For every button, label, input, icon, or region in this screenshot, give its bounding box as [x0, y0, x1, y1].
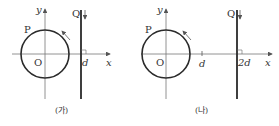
- wire-label: Q: [72, 8, 80, 19]
- origin-label: O: [34, 57, 42, 68]
- caption: (가): [55, 106, 68, 115]
- x-axis-label: x: [106, 57, 112, 68]
- origin-label: O: [156, 57, 164, 68]
- panel-b: y Q P O d 2d x (나): [141, 4, 272, 115]
- tick-label-2d: 2d: [237, 57, 251, 68]
- y-axis-label: y: [156, 4, 163, 15]
- panel-a: y Q P O d x (가): [12, 4, 112, 115]
- loop-label: P: [24, 24, 31, 35]
- y-axis-label: y: [35, 4, 42, 15]
- x-axis-label: x: [265, 57, 271, 68]
- tick-label-d: d: [82, 57, 88, 68]
- diagram-canvas: y Q P O d x (가) y Q P O d 2d x (나): [0, 0, 279, 126]
- tick-label-d: d: [199, 58, 205, 69]
- loop-label: P: [145, 24, 152, 35]
- wire-label: Q: [227, 8, 235, 19]
- caption: (나): [195, 106, 208, 115]
